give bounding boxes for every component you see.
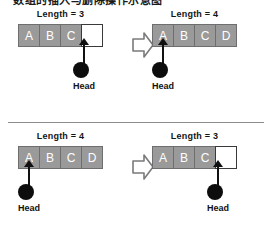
- length-label: Length = 3: [152, 130, 237, 142]
- length-label: Length = 3: [18, 8, 103, 20]
- array-cells: A B C: [18, 24, 103, 47]
- array-group-insert-before: Length = 3 A B C Head: [18, 8, 103, 47]
- head-label: Head: [6, 203, 52, 213]
- filled-circle-icon: [18, 184, 34, 200]
- array-cell[interactable]: D: [215, 24, 237, 47]
- array-cell[interactable]: A: [18, 24, 40, 47]
- head-label: Head: [140, 81, 186, 91]
- array-cell[interactable]: B: [173, 24, 195, 47]
- array-group-delete-after: Length = 3 A B C Head: [152, 130, 237, 169]
- page-heading-cropped: 数组的插入与删除操作示意图: [0, 0, 271, 7]
- array-cell[interactable]: B: [39, 146, 61, 169]
- filled-circle-icon: [152, 62, 168, 78]
- array-cell[interactable]: B: [173, 146, 195, 169]
- arrow-shaft: [28, 166, 30, 186]
- panel-delete: Length = 4 A B C D Head Length = 3 A B C: [0, 130, 271, 240]
- page-heading-text: 数组的插入与删除操作示意图: [13, 0, 163, 7]
- panel-insert: Length = 3 A B C Head Length = 4 A B C D: [0, 8, 271, 118]
- arrow-shaft: [162, 44, 164, 64]
- array-cell[interactable]: B: [39, 24, 61, 47]
- array-cell[interactable]: D: [81, 146, 103, 169]
- filled-circle-icon: [207, 184, 223, 200]
- length-label: Length = 4: [18, 130, 103, 142]
- array-cell[interactable]: C: [60, 146, 82, 169]
- array-group-delete-before: Length = 4 A B C D Head: [18, 130, 103, 169]
- length-label: Length = 4: [152, 8, 237, 20]
- array-cell[interactable]: A: [152, 146, 174, 169]
- filled-circle-icon: [73, 62, 89, 78]
- panel-divider: [8, 122, 264, 123]
- array-cells: A B C: [152, 146, 237, 169]
- arrow-shaft: [217, 166, 219, 186]
- array-cell[interactable]: C: [194, 24, 216, 47]
- array-group-insert-after: Length = 4 A B C D Head: [152, 8, 237, 47]
- head-label: Head: [195, 203, 241, 213]
- arrow-shaft: [83, 44, 85, 64]
- head-label: Head: [61, 81, 107, 91]
